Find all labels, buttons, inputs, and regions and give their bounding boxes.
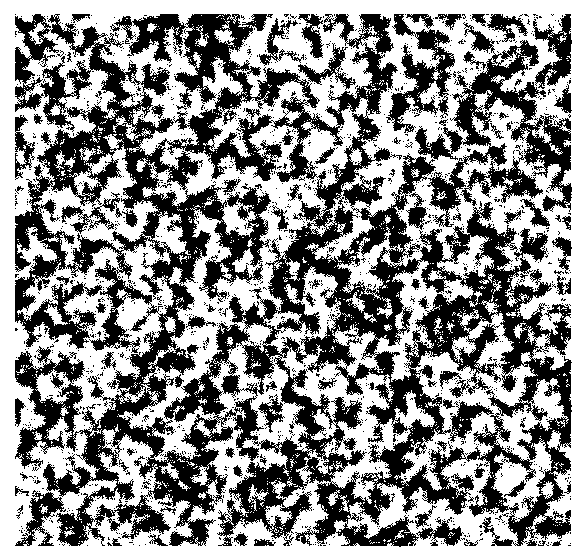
noise-texture-canvas [15,14,572,548]
noise-texture-frame [15,14,572,548]
